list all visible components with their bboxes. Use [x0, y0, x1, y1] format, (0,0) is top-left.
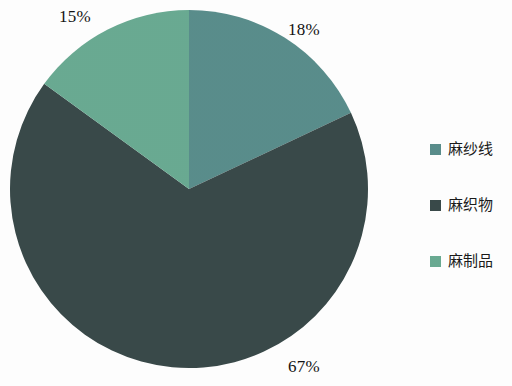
legend-item-2[interactable]: 麻制品: [430, 250, 512, 272]
slice-data-label-1: 67%: [288, 357, 320, 377]
pie-slice-group: [10, 10, 368, 368]
chart-legend: 麻纱线 麻织物 麻制品: [430, 138, 512, 272]
legend-item-1[interactable]: 麻织物: [430, 194, 512, 216]
legend-item-label-2: 麻制品: [448, 253, 493, 269]
slice-data-label-2: 15%: [59, 7, 91, 27]
legend-item-0[interactable]: 麻纱线: [430, 138, 512, 160]
legend-item-label-1: 麻织物: [448, 197, 493, 213]
legend-swatch-icon-2: [430, 256, 441, 267]
slice-data-label-0: 18%: [288, 20, 320, 40]
legend-item-label-0: 麻纱线: [448, 141, 493, 157]
legend-swatch-icon-1: [430, 200, 441, 211]
legend-swatch-icon-0: [430, 144, 441, 155]
pie-svg: [0, 0, 380, 386]
pie-chart: 18% 67% 15% 麻纱线 麻织物 麻制品: [0, 0, 512, 386]
pie-plot-area: 18% 67% 15%: [0, 0, 380, 386]
